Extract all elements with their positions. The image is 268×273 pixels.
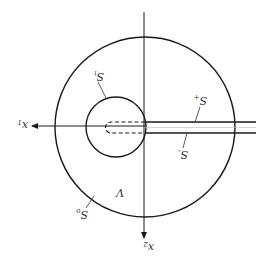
leader-lower — [183, 133, 187, 148]
label-axis-x1: x1 — [17, 118, 28, 132]
inner-circle — [86, 97, 146, 157]
leader-inner — [98, 82, 106, 98]
label-slit-upper: S+ — [193, 93, 207, 107]
label-region: V — [115, 186, 124, 199]
outer-circle — [55, 37, 235, 217]
label-axis-x2: x2 — [143, 240, 154, 254]
diagram-svg: Si S+ S- So V x1 x2 — [0, 0, 268, 273]
label-outer-surface: So — [76, 207, 88, 221]
label-inner-surface: Si — [94, 69, 104, 83]
leader-upper — [195, 107, 200, 122]
label-slit-lower: S- — [177, 147, 188, 161]
diagram-canvas: Si S+ S- So V x1 x2 — [0, 0, 268, 273]
slit-dashed-tip — [106, 122, 146, 133]
